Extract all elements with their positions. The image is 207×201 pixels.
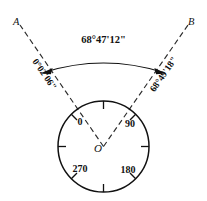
station-label-a: A: [12, 16, 20, 27]
graduation-label-90: 90: [125, 118, 135, 129]
included-angle-arc: [44, 63, 164, 73]
graduation-label-270: 270: [73, 163, 88, 174]
station-label-b: B: [188, 16, 195, 27]
angle-diagram-figure: A B O 68°47'12" 0°02'06" 68°49'18" 0 90 …: [0, 0, 207, 201]
included-angle-label: 68°47'12": [81, 34, 125, 45]
diagram-canvas: A B O 68°47'12" 0°02'06" 68°49'18" 0 90 …: [0, 0, 207, 201]
graduation-label-0: 0: [78, 116, 83, 127]
graduation-label-180: 180: [121, 164, 136, 175]
foresight-reading-label: 68°49'18": [148, 55, 179, 94]
center-label-o: O: [94, 142, 102, 154]
backsight-reading-label: 0°02'06": [30, 57, 58, 92]
